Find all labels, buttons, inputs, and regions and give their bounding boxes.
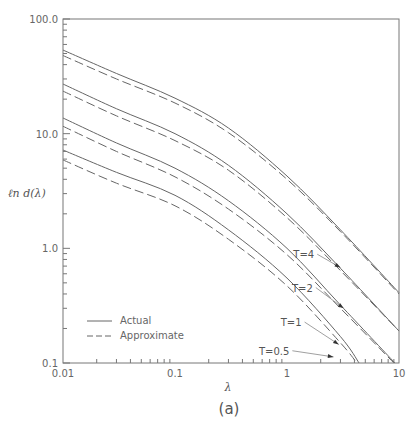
annotation-arrow-line: [292, 351, 333, 357]
curve-t-1-approximate: [63, 126, 394, 363]
curve-t-4-approximate: [63, 56, 399, 294]
annotation-label: T=1: [280, 317, 302, 328]
x-tick-label: 0.01: [52, 368, 74, 379]
legend: Actual Approximate: [87, 315, 184, 341]
plot-frame: [63, 19, 399, 363]
x-axis-title: λ: [224, 381, 232, 394]
annotation-label: T=2: [291, 283, 313, 294]
annotation-arrow-line: [305, 322, 339, 344]
curve-t-0-5-approximate: [63, 160, 357, 363]
annotation-label: T=0.5: [258, 346, 289, 357]
panel-label: (a): [219, 400, 240, 418]
curve-t-1-actual: [63, 118, 395, 363]
y-tick-label: 10.0: [36, 129, 58, 140]
x-tick-label: 1: [284, 368, 290, 379]
cut-off-caption-fragment: [120, 422, 380, 430]
curve-series: [63, 50, 399, 363]
axis-ticks: [63, 19, 394, 363]
y-tick-label: 0.1: [42, 358, 58, 369]
x-tick-label: 0.1: [167, 368, 183, 379]
curve-annotations: T=4T=2T=1T=0.5: [258, 249, 344, 358]
y-axis-title: ℓn d(λ): [8, 187, 46, 200]
curve-t-0-5-actual: [63, 150, 359, 363]
legend-label-actual: Actual: [120, 315, 151, 326]
arrowhead-icon: [328, 354, 334, 358]
x-tick-label: 10: [393, 368, 406, 379]
log-log-line-chart: 0.010.11100.11.010.0100.0 ℓn d(λ) λ (a) …: [0, 0, 417, 430]
legend-label-approximate: Approximate: [120, 330, 184, 341]
y-tick-label: 100.0: [29, 14, 58, 25]
axis-tick-labels: 0.010.11100.11.010.0100.0: [29, 14, 405, 379]
curve-t-2-actual: [63, 84, 399, 331]
arrowhead-icon: [338, 303, 344, 308]
annotation-label: T=4: [292, 249, 314, 260]
y-tick-label: 1.0: [42, 243, 58, 254]
